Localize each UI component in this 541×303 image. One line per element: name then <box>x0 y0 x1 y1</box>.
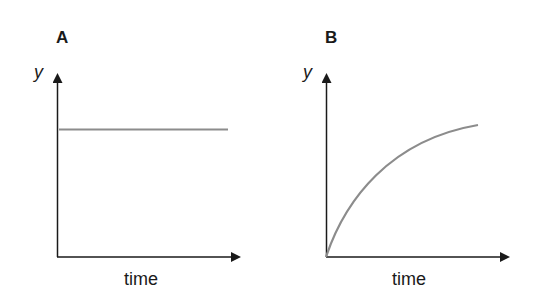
x-axis-label-a: time <box>124 269 158 290</box>
saturation-curve-b <box>326 125 478 257</box>
panel-b-axes <box>326 78 505 257</box>
panel-label-a: A <box>56 28 68 48</box>
y-axis-label-a: y <box>34 62 43 83</box>
panel-label-b: B <box>325 28 337 48</box>
y-axis-label-b: y <box>303 62 312 83</box>
panel-a-axes <box>57 78 236 257</box>
charts-canvas <box>0 0 541 303</box>
x-axis-label-b: time <box>392 269 426 290</box>
